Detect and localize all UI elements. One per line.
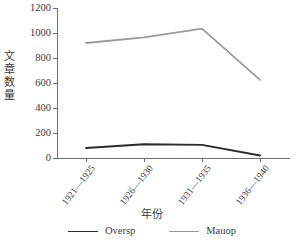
y-tick-label: 600 bbox=[35, 78, 51, 89]
legend-item-oversp[interactable]: Oversp bbox=[68, 226, 135, 237]
y-tick-label: 800 bbox=[35, 53, 51, 64]
y-tick-label: 1000 bbox=[30, 28, 51, 39]
plot-area: 020040060080010001200 1921—19251926—1930… bbox=[57, 8, 289, 158]
legend-item-mauop[interactable]: Mauop bbox=[169, 226, 236, 237]
y-tick-mark bbox=[53, 58, 57, 59]
x-tick-mark bbox=[260, 158, 261, 162]
y-tick-mark bbox=[53, 83, 57, 84]
x-tick-label: 1931—1935 bbox=[177, 164, 214, 207]
x-tick-mark bbox=[144, 158, 145, 162]
legend-item-label: Oversp bbox=[105, 226, 135, 237]
y-tick-mark bbox=[53, 158, 57, 159]
x-tick-mark bbox=[86, 158, 87, 162]
y-tick-mark bbox=[53, 8, 57, 9]
y-tick-mark bbox=[53, 108, 57, 109]
y-tick-label: 200 bbox=[35, 128, 51, 139]
x-axis-line bbox=[57, 158, 290, 159]
x-tick-label: 1921—1925 bbox=[61, 164, 98, 207]
legend-line-icon bbox=[68, 231, 98, 232]
x-tick-label: 1926—1930 bbox=[119, 164, 156, 207]
legend-item-label: Mauop bbox=[206, 226, 236, 237]
x-tick-mark bbox=[202, 158, 203, 162]
y-axis-title: 文章数量 bbox=[2, 50, 16, 102]
y-tick-mark bbox=[53, 133, 57, 134]
x-axis-title: 年份 bbox=[0, 205, 304, 221]
y-tick-label: 400 bbox=[35, 103, 51, 114]
x-tick-label: 1936—1940 bbox=[235, 164, 272, 207]
line-chart-figure: 文章数量 020040060080010001200 1921—19251926… bbox=[0, 0, 304, 245]
y-tick-label: 1200 bbox=[30, 3, 51, 14]
chart-legend: OverspMauop bbox=[0, 226, 304, 237]
legend-line-icon bbox=[169, 231, 199, 232]
y-tick-label: 0 bbox=[46, 153, 51, 164]
y-tick-mark bbox=[53, 33, 57, 34]
